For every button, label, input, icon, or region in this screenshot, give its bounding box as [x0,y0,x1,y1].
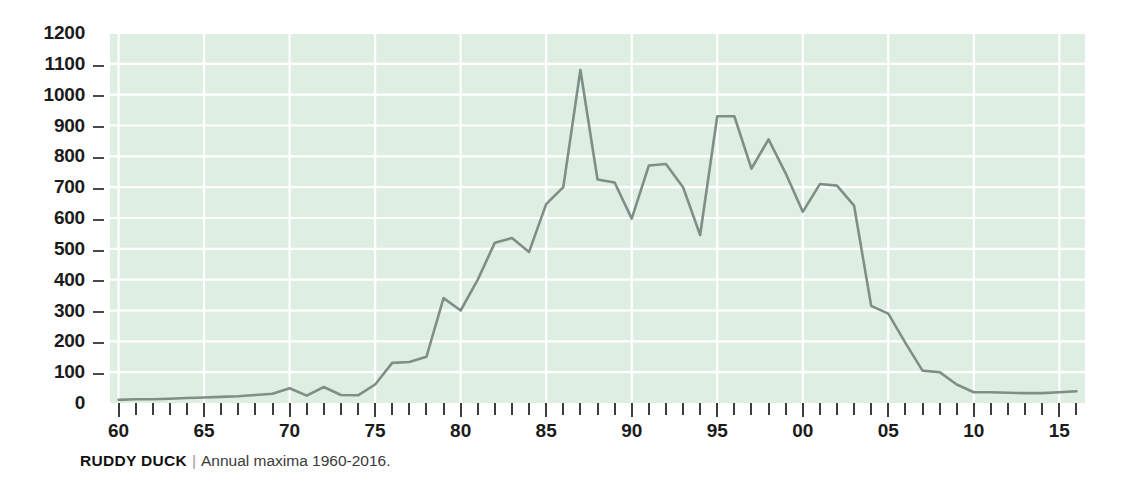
x-tick-mark [528,403,530,415]
x-tick-label-75: 75 [365,420,386,442]
data-series-line [119,70,1077,400]
y-tick-900: 900 [54,117,110,135]
x-tick-mark [682,403,684,415]
y-tick-label: 900 [54,115,85,136]
x-tick-mark [836,403,838,415]
x-tick-mark [135,403,137,415]
caption-subtitle: Annual maxima 1960-2016. [201,452,391,469]
chart-figure: 0100200300400500600700800900100011001200… [0,0,1133,485]
y-tick-label: 1000 [44,84,85,105]
y-tick-400: 400 [54,271,110,289]
y-tick-100: 100 [54,363,110,381]
x-tick-mark [1024,403,1026,415]
x-tick-mark [597,403,599,415]
x-tick-label-85: 85 [536,420,557,442]
caption-separator: | [192,452,196,469]
x-tick-label-05: 05 [878,420,899,442]
x-tick-mark [186,403,188,415]
x-tick-label-90: 90 [621,420,642,442]
x-tick-label-70: 70 [279,420,300,442]
y-tick-1100: 1100 [45,55,110,73]
x-tick-mark [477,403,479,415]
x-tick-mark [579,403,581,415]
y-tick-mark [93,373,104,375]
y-tick-1000: 1000 [44,86,110,104]
x-tick-label-15: 15 [1049,420,1070,442]
x-tick-mark [357,403,359,415]
x-tick-mark [785,403,787,415]
x-tick-mark [939,403,941,415]
y-tick-label: 800 [54,145,85,166]
x-tick-mark [819,403,821,415]
x-tick-mark [306,403,308,415]
x-tick-mark [408,403,410,415]
y-tick-label: 700 [54,176,85,197]
x-tick-mark [289,403,291,417]
y-tick-mark [93,188,104,190]
x-tick-mark [802,403,804,417]
x-tick-label-95: 95 [707,420,728,442]
x-tick-mark [990,403,992,415]
x-tick-mark [614,403,616,415]
x-tick-mark [511,403,513,415]
y-tick-mark [93,280,104,282]
x-tick-label-60: 60 [108,420,129,442]
x-tick-mark [203,403,205,417]
y-tick-mark [93,250,104,252]
plot-area [110,33,1085,403]
x-tick-label-80: 80 [450,420,471,442]
x-tick-mark [152,403,154,415]
x-tick-mark [870,403,872,415]
x-tick-mark [1075,403,1077,415]
y-tick-label: 400 [54,269,85,290]
x-tick-mark [1058,403,1060,417]
x-tick-mark [374,403,376,417]
x-tick-mark [220,403,222,415]
x-tick-mark [254,403,256,415]
x-tick-mark [118,403,120,417]
y-tick-label: 100 [54,361,85,382]
y-tick-600: 600 [54,209,110,227]
x-tick-mark [716,403,718,417]
y-tick-200: 200 [54,332,110,350]
x-axis-labels: 606570758085909500051015 [110,420,1085,446]
y-tick-mark [93,342,104,344]
y-tick-mark [93,126,104,128]
x-tick-mark [425,403,427,415]
x-tick-mark [169,403,171,415]
x-tick-mark [545,403,547,417]
y-axis: 0100200300400500600700800900100011001200 [0,33,110,403]
y-tick-mark [93,65,104,67]
y-tick-mark [93,219,104,221]
x-tick-mark [391,403,393,415]
x-tick-mark [631,403,633,417]
x-tick-mark [853,403,855,415]
y-tick-label: 1200 [44,22,85,43]
chart-caption: RUDDY DUCK|Annual maxima 1960-2016. [80,452,391,470]
y-tick-label: 1100 [45,53,85,74]
x-tick-mark [648,403,650,415]
y-tick-700: 700 [54,178,110,196]
y-tick-800: 800 [54,147,110,165]
y-tick-label: 0 [75,392,85,413]
y-tick-mark [93,34,104,36]
y-tick-mark [93,404,104,406]
y-tick-label: 200 [54,330,85,351]
x-tick-label-10: 10 [963,420,984,442]
x-tick-mark [460,403,462,417]
x-tick-mark [973,403,975,417]
x-tick-mark [733,403,735,415]
y-tick-mark [93,95,104,97]
x-tick-mark [1007,403,1009,415]
x-tick-mark [699,403,701,415]
y-tick-label: 500 [54,238,85,259]
x-tick-mark [272,403,274,415]
x-tick-mark [494,403,496,415]
x-tick-mark [956,403,958,415]
x-tick-mark [323,403,325,415]
y-tick-label: 300 [54,300,85,321]
y-tick-300: 300 [54,302,110,320]
x-tick-mark [237,403,239,415]
x-tick-mark [1041,403,1043,415]
x-tick-mark [443,403,445,415]
